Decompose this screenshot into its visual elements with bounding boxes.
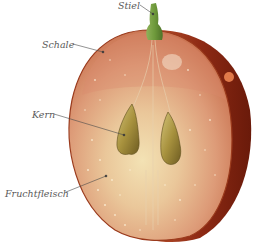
label-schale: Schale (42, 40, 74, 50)
label-fruchtfleisch: Fruchtfleisch (5, 189, 69, 199)
grape-diagram (0, 0, 256, 243)
leader-line-schale (73, 44, 103, 52)
label-kern: Kern (32, 110, 55, 120)
label-stiel: Stiel (118, 1, 140, 11)
stem (146, 3, 163, 40)
